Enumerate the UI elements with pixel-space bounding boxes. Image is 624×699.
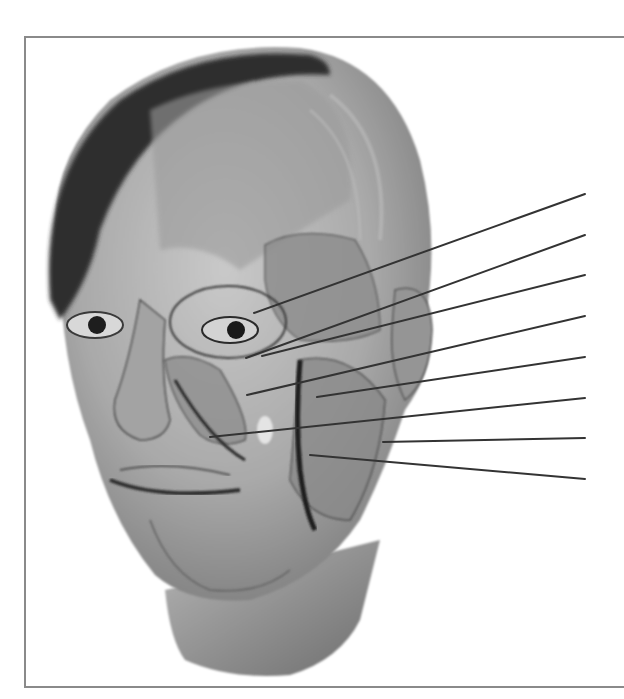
leader-line-7 bbox=[383, 438, 585, 442]
